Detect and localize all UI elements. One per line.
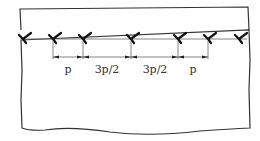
dimension-label-p-1: p: [64, 63, 71, 76]
extension-lines: [53, 41, 208, 59]
dimension-label-3p2-1: 3p/2: [95, 63, 120, 76]
weld-marker-icon: [204, 33, 216, 43]
weld-marker-icon: [235, 33, 247, 43]
dimension-label-3p2-2: 3p/2: [143, 63, 168, 76]
weld-marker-icon: [174, 33, 186, 43]
weld-spacing-diagram: p 3p/2 3p/2 p: [0, 0, 260, 141]
plate-outline: [20, 7, 250, 134]
weld-marker-icon: [79, 33, 91, 43]
dimension-label-p-2: p: [189, 63, 196, 76]
